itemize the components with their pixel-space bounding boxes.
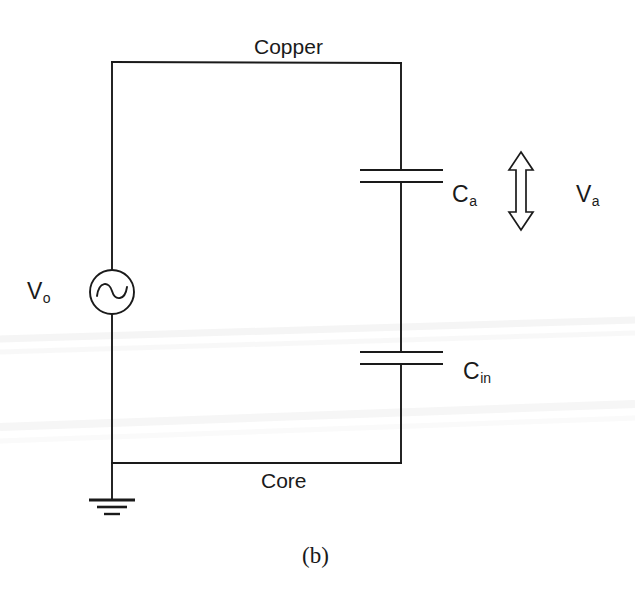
- capacitor-ca-symbol: [360, 170, 443, 182]
- label-voltage-va-main: V: [576, 181, 591, 207]
- circuit-schematic-svg: [0, 0, 635, 592]
- capacitor-cin-symbol: [360, 352, 443, 364]
- label-capacitor-cin-sub: in: [480, 370, 491, 386]
- label-capacitor-cin-main: C: [463, 358, 480, 384]
- label-voltage-va-sub: a: [592, 193, 600, 209]
- label-copper: Copper: [254, 36, 323, 57]
- wire-top-copper: [112, 62, 401, 63]
- scan-artifact-bands: [0, 320, 635, 441]
- double-arrow-outline: [509, 152, 533, 230]
- label-capacitor-ca-sub: a: [469, 193, 477, 209]
- label-core: Core: [261, 470, 307, 491]
- label-source-vo-sub: o: [43, 290, 51, 306]
- circuit-figure: Copper Core Vo Ca Cin Va (b): [0, 0, 635, 592]
- label-source-vo: Vo: [27, 280, 50, 303]
- figure-caption: (b): [302, 544, 329, 567]
- label-capacitor-cin: Cin: [463, 360, 491, 383]
- label-capacitor-ca: Ca: [452, 183, 476, 206]
- label-capacitor-ca-main: C: [452, 181, 469, 207]
- ground-symbol: [89, 500, 135, 514]
- label-source-vo-main: V: [27, 278, 42, 304]
- ac-voltage-source-symbol: [90, 270, 134, 314]
- label-voltage-va: Va: [576, 183, 599, 206]
- voltage-span-arrow-icon: [509, 152, 533, 230]
